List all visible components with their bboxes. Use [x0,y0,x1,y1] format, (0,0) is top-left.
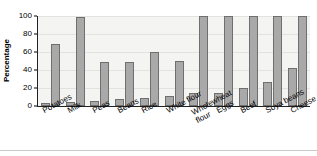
bar [150,52,159,106]
bar-group [261,16,286,106]
bars-layer [38,16,310,106]
bottom-rule [0,150,317,151]
y-axis-title: Percentage [1,14,13,106]
bar-group [137,16,162,106]
bar-group [87,16,112,106]
plot-area [37,16,310,107]
y-tick-label: 60 [23,48,32,56]
bar-group [112,16,137,106]
bar-group [236,16,261,106]
y-tick-label: 100 [19,12,32,20]
bar-group [38,16,63,106]
y-tick-label: 20 [23,84,32,92]
bar [76,17,85,106]
y-axis-title-text: Percentage [3,38,12,81]
bar-chart: Percentage 020406080100 PotatoesMilkPeas… [0,0,317,156]
bar-group [162,16,187,106]
bar [249,16,258,106]
y-axis-tick-labels: 020406080100 [13,12,34,110]
y-tick-label: 0 [28,102,32,110]
y-tick-label: 80 [23,30,32,38]
x-axis-tick-labels: PotatoesMilkPeasBeansRiceWhite flourWhol… [37,107,309,156]
y-tick-label: 40 [23,66,32,74]
bar [273,16,282,106]
